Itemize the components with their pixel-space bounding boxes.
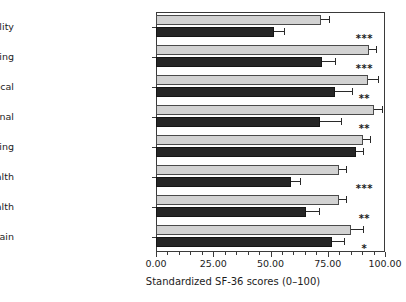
bar-dark — [156, 117, 320, 127]
y-axis-tick — [152, 117, 156, 118]
y-axis-tick-label: Role impairment, physical — [0, 81, 14, 92]
y-axis-tick-label: Bodily pain — [0, 231, 14, 242]
error-bar-cap — [363, 148, 364, 155]
y-axis-tick — [152, 57, 156, 58]
x-axis-tick-major — [271, 252, 272, 257]
bar-group-row — [156, 102, 385, 132]
bar-slot — [156, 75, 385, 85]
bar-slot — [156, 207, 385, 217]
error-bar-line — [368, 79, 378, 80]
x-axis-tick-minor — [293, 252, 294, 255]
bar-light — [156, 135, 363, 145]
bar-slot — [156, 45, 385, 55]
bar-dark — [156, 237, 332, 247]
bar-slot — [156, 237, 385, 247]
y-axis-tick — [152, 177, 156, 178]
x-axis-tick-minor — [248, 252, 249, 255]
y-axis-tick-label: General health — [0, 201, 14, 212]
bar-dark — [156, 147, 356, 157]
error-bar-cap — [376, 46, 377, 53]
x-axis-tick-minor — [225, 252, 226, 255]
bar-slot — [156, 105, 385, 115]
bar-slot — [156, 165, 385, 175]
bar-light — [156, 15, 321, 25]
y-axis-tick — [152, 27, 156, 28]
bar-group-row — [156, 72, 385, 102]
bar-group-row — [156, 132, 385, 162]
x-axis-tick-minor — [305, 252, 306, 255]
bar-light — [156, 195, 339, 205]
significance-marker: ** — [359, 123, 370, 134]
significance-marker: ** — [359, 213, 370, 224]
x-axis-title: Standardized SF-36 scores (0–100) — [0, 276, 406, 287]
error-bar-cap — [300, 178, 301, 185]
x-axis-title-text: Standardized SF-36 scores (0–100) — [86, 276, 320, 287]
error-bar-cap — [352, 88, 353, 95]
y-axis-tick-label: Social functioning — [0, 51, 14, 62]
x-axis-tick-minor — [374, 252, 375, 255]
error-bar-line — [274, 31, 284, 32]
error-bar-cap — [284, 28, 285, 35]
bar-light — [156, 225, 351, 235]
x-axis-tick-label: 100.00 — [368, 258, 401, 269]
x-axis-tick-major — [328, 252, 329, 257]
error-bar-cap — [335, 58, 336, 65]
y-axis-tick-label: Vitality — [0, 21, 14, 32]
y-axis-tick — [152, 147, 156, 148]
y-axis-tick — [152, 87, 156, 88]
bar-slot — [156, 117, 385, 127]
error-bar-cap — [329, 16, 330, 23]
y-axis-tick-label: Role impairment, emotional — [0, 111, 14, 122]
x-axis-tick-minor — [316, 252, 317, 255]
error-bar-line — [356, 151, 363, 152]
error-bar-line — [351, 229, 364, 230]
bar-slot — [156, 15, 385, 25]
x-axis-tick-minor — [259, 252, 260, 255]
x-axis-tick-label: 75.00 — [314, 258, 341, 269]
bar-group-row — [156, 192, 385, 222]
y-axis-tick — [152, 237, 156, 238]
error-bar-line — [332, 241, 343, 242]
x-axis-tick-major — [213, 252, 214, 257]
x-axis-tick-major — [156, 252, 157, 257]
x-axis-tick-minor — [236, 252, 237, 255]
error-bar-cap — [346, 196, 347, 203]
error-bar-cap — [346, 166, 347, 173]
x-axis-tick-minor — [351, 252, 352, 255]
error-bar-cap — [341, 118, 342, 125]
bar-group-row — [156, 222, 385, 252]
x-axis-tick-minor — [167, 252, 168, 255]
bar-light — [156, 45, 369, 55]
bar-slot — [156, 195, 385, 205]
x-axis-tick-label: 0.00 — [145, 258, 166, 269]
error-bar-line — [306, 211, 319, 212]
bar-group-row — [156, 42, 385, 72]
x-axis-tick-label: 50.00 — [257, 258, 284, 269]
bar-slot — [156, 147, 385, 157]
error-bar-line — [369, 49, 376, 50]
bar-slot — [156, 27, 385, 37]
error-bar-cap — [363, 226, 364, 233]
error-bar-cap — [378, 76, 379, 83]
bar-slot — [156, 225, 385, 235]
bar-slot — [156, 87, 385, 97]
bar-dark — [156, 57, 322, 67]
x-axis-tick-minor — [282, 252, 283, 255]
bar-group-row — [156, 12, 385, 42]
error-bar-cap — [382, 106, 383, 113]
significance-marker: * — [362, 243, 368, 254]
bar-dark — [156, 87, 335, 97]
significance-marker: *** — [356, 63, 373, 74]
error-bar-line — [321, 19, 329, 20]
bar-dark — [156, 177, 291, 187]
x-axis-tick-major — [385, 252, 386, 257]
error-bar-line — [339, 199, 346, 200]
error-bar-line — [339, 169, 346, 170]
bar-light — [156, 165, 339, 175]
error-bar-line — [291, 181, 300, 182]
x-axis-tick-minor — [202, 252, 203, 255]
bar-group-row — [156, 162, 385, 192]
error-bar-line — [320, 121, 342, 122]
y-axis-tick — [152, 207, 156, 208]
y-axis-tick-label: Mental health — [0, 171, 14, 182]
